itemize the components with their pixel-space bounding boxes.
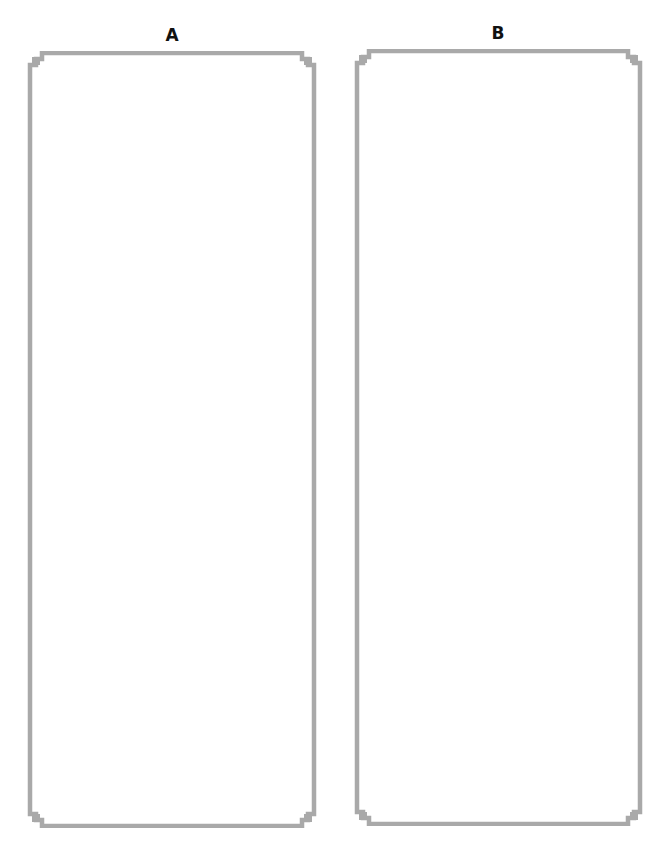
panel-b-frame [353, 49, 644, 826]
panel-a-frame [26, 51, 318, 828]
panel-a-label: A [152, 25, 192, 45]
panel-b-label: B [478, 23, 518, 43]
decorative-border-icon [353, 49, 644, 826]
decorative-border-icon [26, 51, 318, 828]
